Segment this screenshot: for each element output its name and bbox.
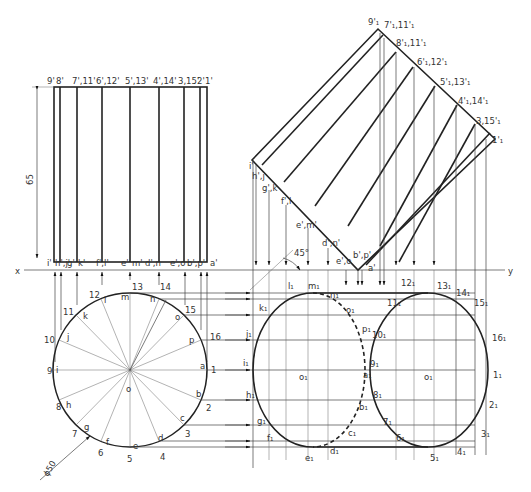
fv-top-label-9: 9' <box>47 76 55 86</box>
fv-bottom-label-dn: d',n <box>145 258 161 268</box>
tv-letter-d: d <box>158 433 163 443</box>
aux-fv-lower-eo: e',o <box>336 256 351 266</box>
tv-letter-b: b <box>196 389 201 399</box>
aux-tv-12: 12₁ <box>401 278 415 288</box>
tv-num-14: 14 <box>160 282 171 292</box>
tv-num-3: 3 <box>185 429 190 439</box>
aux-fv-lower-bp: b',p' <box>353 250 371 260</box>
aux-tv-m1: m₁ <box>308 281 320 291</box>
aux-tv-o1-left: o₁ <box>299 372 308 382</box>
aux-fv-label-3-15: 3,15'₁ <box>476 116 501 126</box>
fv-bottom-label-i: i' <box>47 258 52 268</box>
aux-tv-7: 7₁ <box>383 417 392 427</box>
aux-tv-k1: k₁ <box>259 303 267 313</box>
aux-tv-9: 9₁ <box>370 359 379 369</box>
tv-letter-m: m <box>121 292 129 302</box>
aux-tv-c1: c₁ <box>348 428 356 438</box>
x-label: x <box>15 266 20 276</box>
height-dimension: 65 <box>25 87 54 258</box>
aux-fv-lower-dn: d',n' <box>322 238 340 248</box>
front-view: 65 9' 8' 7',11' 6',12' 5',13' 4',14' 3,1… <box>25 76 218 268</box>
fv-top-label-2: 2' <box>197 76 205 86</box>
fv-top-label-5-13: 5',13' <box>125 76 149 86</box>
fv-top-label-4-14: 4',14' <box>153 76 177 86</box>
aux-tv-h1: h₁ <box>246 390 255 400</box>
tv-num-7: 7 <box>72 429 77 439</box>
tv-letter-g: g <box>84 422 89 432</box>
aux-tv-6: 6₁ <box>396 433 405 443</box>
fv-bottom-label-e: e' <box>121 258 129 268</box>
aux-fv-lower-em: e',m' <box>296 220 317 230</box>
fv-bottom-label-m: m' <box>132 258 143 268</box>
diameter-dimension: ϕ50 <box>40 436 90 480</box>
aux-tv-o1-upper: o₁ <box>346 305 355 315</box>
fv-bottom-label-g: g' <box>67 258 75 268</box>
aux-tv-8: 8₁ <box>373 390 382 400</box>
tv-letter-o: o <box>175 312 180 322</box>
tv-num-16: 16 <box>210 332 221 342</box>
tv-num-11: 11 <box>63 307 74 317</box>
aux-tv-d1: d₁ <box>330 446 339 456</box>
tv-letter-e: e <box>133 441 138 451</box>
height-dim-label: 65 <box>25 174 35 185</box>
aux-tv-o1-right: o₁ <box>424 372 433 382</box>
tv-num-10: 10 <box>44 335 55 345</box>
aux-tv-n1: n₁ <box>330 290 339 300</box>
aux-tv-i1: i₁ <box>243 358 249 368</box>
aux-tv-f1: f₁ <box>267 433 273 443</box>
aux-fv-lower-gk: g',k <box>262 183 277 193</box>
aux-tv-l1: l₁ <box>288 281 294 291</box>
aux-fv-label-5-13: 5'₁,13'₁ <box>440 77 470 87</box>
aux-tv-16: 16₁ <box>492 333 506 343</box>
aux-fv-label-7-11: 7'₁,11'₁ <box>384 20 414 30</box>
fv-top-label-6-12: 6',12' <box>96 76 120 86</box>
aux-tv-5: 5₁ <box>430 453 439 463</box>
tv-num-4: 4 <box>160 452 165 462</box>
aux-fv-label-1: 1'₁ <box>492 135 503 145</box>
tv-letter-a: a <box>200 361 205 371</box>
tv-letter-h: h <box>66 400 71 410</box>
fv-bottom-label-bp: b',p' <box>187 258 205 268</box>
aux-tv-g1: g₁ <box>257 416 266 426</box>
aux-tv-b1: b₁ <box>359 402 368 412</box>
fv-bottom-label-k: k' <box>78 258 85 268</box>
tv-num-9: 9 <box>47 366 52 376</box>
fv-bottom-label-fl: f',l' <box>96 258 109 268</box>
tv-num-13: 13 <box>132 282 143 292</box>
aux-front-view: 45° 9'₁ 7'₁,11'₁ 8'₁,11'₁ 6'₁,12'₁ 5'₁,1… <box>249 17 503 290</box>
fv-bottom-label-eo: e',o <box>170 258 185 268</box>
aux-tv-3: 3₁ <box>481 429 490 439</box>
tv-center-o: o <box>126 384 131 394</box>
tv-num-2: 2 <box>206 403 211 413</box>
tv-num-6: 6 <box>98 448 103 458</box>
aux-tv-1: 1₁ <box>493 370 502 380</box>
aux-tv-11: 11₁ <box>387 298 401 308</box>
aux-fv-lower-fl: f',l <box>281 196 291 206</box>
tv-letter-c: c <box>180 413 185 423</box>
aux-tv-14: 14₁ <box>456 288 470 298</box>
tv-letter-n: n <box>150 294 155 304</box>
tv-letter-i: i <box>56 365 58 375</box>
tv-letter-j: j <box>66 332 69 342</box>
fv-top-label-8: 8' <box>56 76 64 86</box>
aux-tv-e1: e₁ <box>305 453 314 463</box>
aux-fv-lower-hj: h',j <box>252 171 265 181</box>
aux-tv-10: 10₁ <box>372 330 386 340</box>
aux-tv-j1: j₁ <box>245 329 252 339</box>
aux-tv-15: 15₁ <box>474 298 488 308</box>
aux-fv-label-6-12: 6'₁,12'₁ <box>417 57 447 67</box>
tv-letter-f: f <box>106 437 110 447</box>
y-label: y <box>508 266 513 276</box>
fv-top-label-7-11: 7',11' <box>72 76 96 86</box>
aux-tv-4: 4₁ <box>457 447 466 457</box>
aux-fv-label-8-11: 8'₁,11'₁ <box>396 38 426 48</box>
tv-letter-p: p <box>189 335 194 345</box>
aux-tv-a1: a₁ <box>363 370 372 380</box>
fv-top-label-1: 1' <box>205 76 213 86</box>
xy-reference-line: x y <box>15 266 513 276</box>
tv-letter-l: l <box>104 295 106 305</box>
top-view-circle: ϕ50 1 2 3 4 5 6 7 8 9 10 11 12 13 14 15 … <box>40 282 221 480</box>
angle-label: 45° <box>294 248 309 258</box>
aux-tv-p1: p₁ <box>362 324 371 334</box>
tv-num-8: 8 <box>56 402 61 412</box>
